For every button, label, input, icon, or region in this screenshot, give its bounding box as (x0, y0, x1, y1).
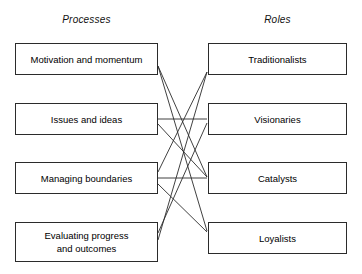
process-node-label: Issues and ideas (51, 113, 122, 126)
role-node-label: Loyalists (259, 232, 296, 245)
role-node-visionaries: Visionaries (208, 103, 347, 135)
column-heading-processes: Processes (15, 14, 158, 25)
connector-evaluating-to-traditionalists (158, 72, 207, 240)
role-node-label: Catalysts (258, 172, 297, 185)
connector-issues-to-catalysts (158, 124, 207, 177)
role-node-catalysts: Catalysts (208, 162, 347, 194)
role-node-loyalists: Loyalists (208, 222, 347, 254)
role-node-label: Visionaries (254, 113, 300, 126)
connector-evaluating-to-visionaries (158, 123, 207, 233)
role-node-label: Traditionalists (248, 53, 306, 66)
process-node-issues: Issues and ideas (15, 103, 158, 135)
connector-boundaries-to-traditionalists (158, 72, 207, 172)
connector-lines (158, 66, 207, 240)
process-node-evaluating: Evaluating progress and outcomes (15, 222, 158, 262)
connector-boundaries-to-loyalists (158, 184, 207, 232)
connector-motivation-to-catalysts (158, 66, 207, 177)
process-node-label: Evaluating progress and outcomes (45, 229, 129, 255)
process-node-motivation: Motivation and momentum (15, 43, 158, 75)
process-node-label: Motivation and momentum (31, 53, 143, 66)
processes-roles-diagram: Processes Roles Motivation and momentum … (0, 0, 362, 274)
role-node-traditionalists: Traditionalists (208, 43, 347, 75)
connector-motivation-to-loyalists (158, 66, 207, 231)
column-heading-roles: Roles (208, 14, 347, 25)
process-node-boundaries: Managing boundaries (15, 162, 158, 194)
process-node-label: Managing boundaries (41, 172, 132, 185)
